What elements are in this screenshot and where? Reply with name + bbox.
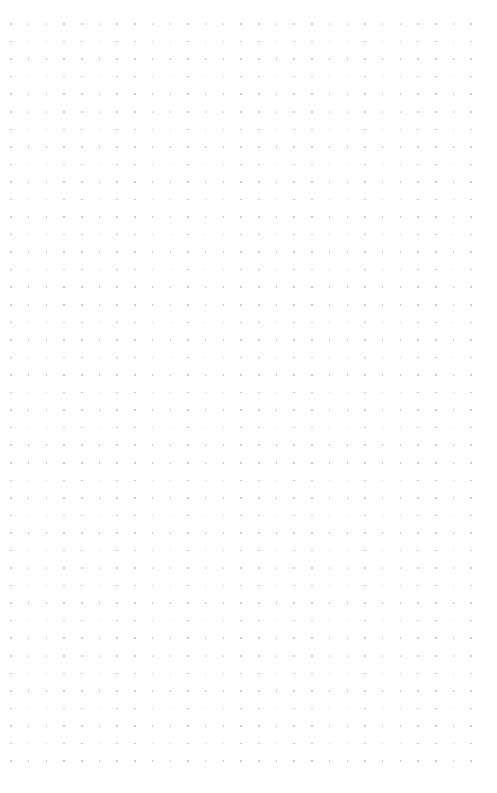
page-content-area[interactable]	[0, 0, 497, 793]
dot-grid-page	[0, 0, 497, 793]
